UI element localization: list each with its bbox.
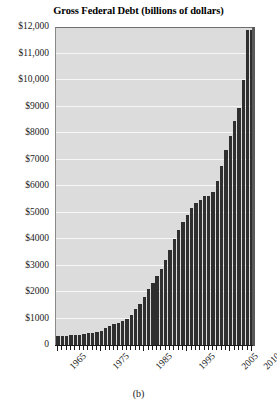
x-axis-tick [79,346,80,350]
x-axis-tick [126,346,127,350]
y-axis-tick-label: $8000 [25,128,49,138]
bar [65,336,68,345]
bar [151,283,154,345]
bar [168,250,171,345]
bar [134,309,137,345]
x-axis-tick-label: 1975 [111,351,132,372]
bar [211,192,214,345]
bar [69,335,72,345]
bar [233,121,236,345]
x-axis-tick [152,346,153,350]
figure-caption: (b) [0,388,277,399]
x-axis-tick [169,346,170,350]
x-axis: 196519751985199520052010 [0,351,277,386]
y-axis-tick-label: $3000 [25,261,49,271]
bar [186,215,189,345]
bar [190,208,193,345]
x-axis-tick [156,346,157,350]
x-axis-tick [83,346,84,350]
bar [117,323,120,345]
x-axis-tick-label: 1985 [154,351,175,372]
bar [224,150,227,345]
x-axis-tick [225,346,226,350]
bar [112,324,115,345]
x-axis-tick [122,346,123,350]
bar [100,331,103,345]
plot-area [55,27,253,345]
bar [220,166,223,345]
bar [108,326,111,345]
x-axis-tick [173,346,174,350]
y-axis-tick-label: $2000 [25,287,49,297]
bar [199,200,202,345]
x-axis-tick [216,346,217,350]
y-axis-tick-label: 0 [44,340,49,350]
x-axis-tick [204,346,205,350]
y-axis-tick-label: $4000 [25,234,49,244]
x-axis-tick [242,346,243,350]
x-axis-tick [148,346,149,350]
x-axis-tick-label: 1965 [68,351,89,372]
x-axis-tick-label: 2010 [261,351,277,372]
bar-series [56,28,253,345]
x-axis-tick [74,346,75,350]
x-axis-tick [66,346,67,350]
bar [173,239,176,345]
x-axis-tick [247,346,248,350]
x-axis-tick [221,346,222,350]
y-axis-tick-label: $7000 [25,155,49,165]
bar [194,203,197,345]
x-axis-tick [105,346,106,350]
bar [95,332,98,345]
bar [143,297,146,345]
bar [74,335,77,345]
x-axis-tick [61,346,62,350]
bar [121,321,124,345]
plot-frame-right-edge [252,27,255,346]
bar [91,333,94,345]
x-axis-tick [199,346,200,350]
y-axis-tick-label: $9000 [25,102,49,112]
x-axis-tick [109,346,110,350]
x-axis-tick [70,346,71,350]
x-axis-tick [130,346,131,350]
bar [216,181,219,345]
x-axis-tick [165,346,166,350]
x-axis-tick-label: 2005 [240,351,261,372]
x-axis-tick [92,346,93,350]
bar [242,80,245,345]
bar [82,334,85,345]
bar [78,335,81,345]
y-axis-tick-label: $11,000 [18,49,49,59]
x-axis-tick [117,346,118,350]
bar [155,276,158,345]
bar [229,136,232,345]
x-axis-tick [178,346,179,350]
bar [138,304,141,345]
y-axis-tick-label: $10,000 [18,75,49,85]
bar [237,108,240,345]
bar [207,196,210,345]
bar [125,319,128,345]
y-axis-tick-label: $12,000 [18,22,49,32]
x-axis-tick [191,346,192,350]
x-axis-tick [113,346,114,350]
x-axis-tick [208,346,209,350]
bar [181,222,184,345]
y-axis: 0$1000$2000$3000$4000$5000$6000$7000$800… [0,27,52,345]
y-axis-tick-label: $1000 [25,314,49,324]
bar [160,269,163,345]
y-axis-tick-label: $6000 [25,181,49,191]
x-axis-tick-label: 1995 [197,351,218,372]
x-axis-tick [234,346,235,350]
bar [203,196,206,345]
bar [130,315,133,345]
x-axis-tick [195,346,196,350]
x-axis-tick [238,346,239,350]
x-axis-tick [182,346,183,350]
bar [104,328,107,345]
x-axis-tick [96,346,97,350]
chart-title: Gross Federal Debt (billions of dollars) [0,5,277,16]
x-axis-tick [135,346,136,350]
bar [56,336,59,345]
